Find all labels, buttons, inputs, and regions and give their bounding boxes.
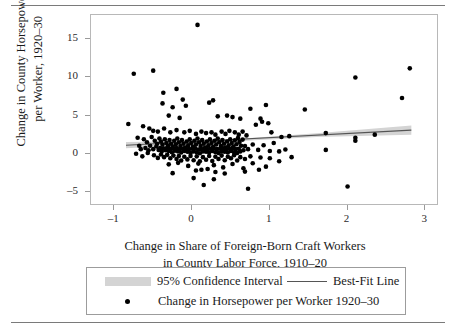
scatter-point xyxy=(238,155,243,160)
scatter-point xyxy=(184,103,189,108)
scatter-point xyxy=(219,129,224,134)
scatter-point xyxy=(215,114,220,119)
scatter-point xyxy=(171,153,176,158)
legend: 95% Confidence Interval Best-Fit Line Ch… xyxy=(86,267,406,315)
scatter-point xyxy=(222,158,227,163)
x-axis-tick-label: 2 xyxy=(335,213,359,224)
scatter-point xyxy=(283,147,288,152)
x-axis-tick-label: 1 xyxy=(257,213,281,224)
scatter-point xyxy=(195,23,200,28)
scatter-point xyxy=(266,121,271,126)
scatter-point xyxy=(407,66,412,71)
scatter-point xyxy=(209,130,214,135)
scatter-point xyxy=(182,130,187,135)
scatter-point xyxy=(269,130,274,135)
scatter-point xyxy=(191,176,196,181)
y-axis-tick-label: 0 xyxy=(52,147,78,158)
scatter-point xyxy=(174,87,179,92)
scatter-point xyxy=(199,129,204,134)
scatter-point xyxy=(207,100,212,105)
scatter-point xyxy=(233,130,238,135)
scatter-point xyxy=(194,168,199,173)
scatter-point xyxy=(204,158,209,163)
scatter-point xyxy=(168,130,173,135)
scatter-plot-canvas xyxy=(91,15,437,204)
scatter-point xyxy=(151,68,156,73)
scatter-point xyxy=(256,148,261,153)
x-axis-tick-label: 0 xyxy=(179,213,203,224)
scatter-point xyxy=(258,155,263,160)
bottom-rule xyxy=(11,322,445,323)
scatter-point xyxy=(191,158,196,163)
scatter-point xyxy=(246,147,251,152)
scatter-point xyxy=(212,163,217,168)
scatter-point xyxy=(353,138,358,143)
scatter-point xyxy=(170,171,175,176)
x-axis-tick-mark xyxy=(191,205,192,210)
scatter-point xyxy=(216,157,221,162)
legend-row-top: 95% Confidence Interval Best-Fit Line xyxy=(87,271,405,293)
scatter-point xyxy=(186,164,191,169)
y-axis-tick-label: 5 xyxy=(52,109,78,120)
scatter-point xyxy=(260,119,265,124)
scatter-point xyxy=(213,132,218,137)
y-axis-tick-label: 15 xyxy=(52,32,78,43)
figure-container: Change in County Horsepower per Worker, … xyxy=(0,0,454,331)
scatter-point xyxy=(194,154,199,159)
scatter-point xyxy=(174,128,179,133)
scatter-point xyxy=(277,149,282,154)
scatter-point xyxy=(126,122,131,127)
y-axis-label-line1: Change in County Horsepower xyxy=(13,0,30,156)
scatter-point xyxy=(201,183,206,188)
scatter-point xyxy=(170,105,175,110)
scatter-point xyxy=(194,132,199,137)
scatter-point xyxy=(222,171,227,176)
scatter-point xyxy=(279,135,284,140)
scatter-point xyxy=(225,113,230,118)
scatter-series xyxy=(126,23,412,191)
scatter-point xyxy=(162,126,167,131)
top-rule xyxy=(11,5,445,6)
scatter-point xyxy=(166,113,171,118)
scatter-point xyxy=(176,161,181,166)
scatter-point xyxy=(400,96,405,101)
scatter-point xyxy=(264,103,269,108)
legend-item-scatter-points: Change in Horsepower per Worker 1920–30 xyxy=(105,295,379,308)
y-axis-tick-label: 10 xyxy=(52,70,78,81)
scatter-point xyxy=(232,153,237,158)
scatter-point xyxy=(250,161,255,166)
scatter-point xyxy=(243,169,248,174)
scatter-point xyxy=(211,98,216,103)
x-axis-label-line1: Change in Share of Foreign-Born Craft Wo… xyxy=(60,238,430,255)
scatter-point xyxy=(180,97,185,102)
scatter-point xyxy=(248,106,253,111)
scatter-point xyxy=(227,129,232,134)
scatter-point xyxy=(141,124,146,129)
x-axis-tick-label: 3 xyxy=(412,213,436,224)
plot-frame xyxy=(90,14,438,205)
scatter-point xyxy=(187,129,192,134)
scatter-point xyxy=(134,151,139,156)
scatter-point xyxy=(166,162,171,167)
y-axis-label-line2: per Worker, 1920–30 xyxy=(30,0,47,156)
legend-label-best-fit-line: Best-Fit Line xyxy=(333,275,399,288)
confidence-band-swatch-icon xyxy=(105,277,151,286)
legend-item-best-fit-line: Best-Fit Line xyxy=(287,275,399,288)
scatter-point xyxy=(177,116,182,121)
scatter-point xyxy=(148,143,153,148)
scatter-point xyxy=(241,148,246,153)
scatter-point xyxy=(165,153,170,158)
scatter-point xyxy=(235,158,240,163)
scatter-point xyxy=(248,154,253,159)
scatter-point xyxy=(205,167,210,172)
scatter-point xyxy=(210,159,215,164)
scatter-point xyxy=(238,116,243,121)
scatter-point xyxy=(250,142,255,147)
scatter-point xyxy=(160,101,165,106)
scatter-point xyxy=(373,132,378,137)
x-axis-tick-mark xyxy=(269,205,270,210)
scatter-point xyxy=(240,137,245,142)
scatter-point xyxy=(353,75,358,80)
scatter-point xyxy=(324,148,329,153)
scatter-point xyxy=(230,162,235,167)
